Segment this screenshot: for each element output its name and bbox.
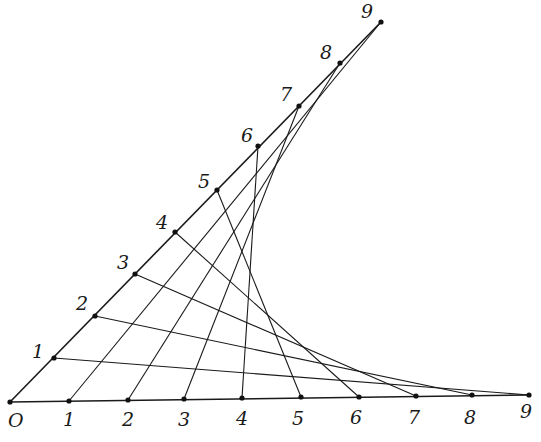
origin-label: O xyxy=(8,409,24,431)
diagonal-label-5: 5 xyxy=(198,170,210,192)
diagonal-label-6: 6 xyxy=(241,124,253,146)
diagonal-point-2 xyxy=(92,313,97,318)
horizontal-label-8: 8 xyxy=(464,406,476,428)
chord-d6-h4 xyxy=(242,146,258,398)
diagonal-point-7 xyxy=(296,103,301,108)
horizontal-label-7: 7 xyxy=(408,406,421,428)
horizontal-point-9 xyxy=(526,392,531,397)
string-art-diagram: O123456789123456789 xyxy=(0,0,541,442)
diagonal-label-2: 2 xyxy=(75,292,88,314)
chord-d5-h5 xyxy=(217,190,301,397)
diagram-figure: O123456789123456789 xyxy=(0,0,541,442)
diagonal-point-6 xyxy=(255,143,260,148)
diagonal-label-7: 7 xyxy=(280,83,293,105)
horizontal-label-1: 1 xyxy=(63,408,75,430)
diagonal-point-5 xyxy=(214,187,219,192)
chord-d2-h8 xyxy=(95,316,472,395)
horizontal-point-3 xyxy=(181,396,186,401)
diagonal-label-1: 1 xyxy=(32,340,44,362)
horizontal-point-4 xyxy=(239,395,244,400)
horizontal-label-2: 2 xyxy=(121,408,134,430)
diagonal-label-8: 8 xyxy=(320,41,332,63)
diagonal-point-4 xyxy=(172,229,177,234)
horizontal-label-4: 4 xyxy=(235,407,248,429)
horizontal-point-1 xyxy=(66,398,71,403)
point-labels: O123456789123456789 xyxy=(8,0,532,431)
rays xyxy=(10,22,529,402)
diagonal-point-8 xyxy=(337,60,342,65)
horizontal-point-8 xyxy=(469,392,474,397)
diagonal-label-4: 4 xyxy=(155,211,168,233)
horizontal-label-5: 5 xyxy=(292,407,304,429)
diagonal-ray xyxy=(10,22,381,402)
diagonal-point-9 xyxy=(378,19,383,24)
horizontal-point-7 xyxy=(413,393,418,398)
horizontal-ray xyxy=(10,395,529,402)
diagonal-label-9: 9 xyxy=(361,0,373,22)
horizontal-point-5 xyxy=(298,394,303,399)
chord-d1-h9 xyxy=(54,358,529,395)
horizontal-label-9: 9 xyxy=(520,400,532,422)
division-points xyxy=(7,19,531,404)
diagonal-label-3: 3 xyxy=(117,251,129,273)
connecting-lines xyxy=(54,22,529,401)
horizontal-point-2 xyxy=(125,397,130,402)
horizontal-label-6: 6 xyxy=(350,406,362,428)
origin-point xyxy=(7,399,12,404)
horizontal-point-6 xyxy=(356,394,361,399)
diagonal-point-1 xyxy=(51,355,56,360)
chord-d9-h1 xyxy=(69,22,381,401)
diagonal-point-3 xyxy=(132,271,137,276)
horizontal-label-3: 3 xyxy=(178,408,190,430)
